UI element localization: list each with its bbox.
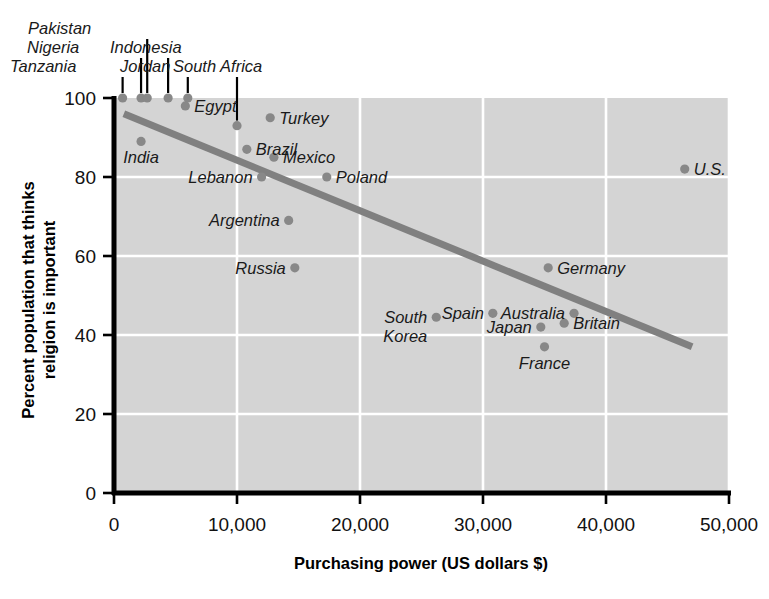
data-point-label: Jordan (119, 57, 170, 75)
data-point-label: Russia (235, 259, 285, 277)
data-point (143, 93, 152, 102)
y-tick-label: 60 (75, 246, 96, 267)
data-point-label: Turkey (279, 109, 330, 127)
data-point-label: Argentina (208, 211, 280, 229)
data-point-label: Japan (486, 318, 532, 336)
data-point-label: Mexico (283, 148, 335, 166)
data-point (680, 165, 689, 174)
scatter-chart-figure: 020406080100 010,00020,00030,00040,00050… (0, 0, 769, 599)
plot-area-background (114, 98, 729, 493)
y-tick-label: 40 (75, 325, 96, 346)
data-point-label: Tanzania (10, 57, 76, 75)
x-tick-label: 0 (109, 514, 120, 535)
data-point-label: South Africa (173, 57, 262, 75)
data-point (136, 137, 145, 146)
y-axis-title-line-1: Percent population that thinks (19, 181, 37, 418)
data-point (488, 309, 497, 318)
data-point-label: Egypt (194, 97, 238, 115)
data-point-label: Poland (336, 168, 388, 186)
data-point-label: Spain (442, 304, 484, 322)
data-point (536, 323, 545, 332)
data-point-label: India (123, 148, 159, 166)
data-point (544, 263, 553, 272)
data-point (257, 172, 266, 181)
x-tick-label: 50,000 (700, 514, 758, 535)
data-point (164, 93, 173, 102)
data-point (242, 145, 251, 154)
x-tick-label: 10,000 (208, 514, 266, 535)
data-point (540, 342, 549, 351)
x-tick-label: 40,000 (577, 514, 635, 535)
y-tick-label: 100 (64, 88, 96, 109)
data-point-label: Nigeria (27, 38, 79, 56)
y-tick-label: 20 (75, 404, 96, 425)
x-axis-title: Purchasing power (US dollars $) (294, 554, 548, 572)
y-tick-label: 80 (75, 167, 96, 188)
data-point (322, 172, 331, 181)
data-point (284, 216, 293, 225)
data-point-label: U.S. (694, 160, 726, 178)
data-point-label: France (519, 354, 570, 372)
data-point (232, 121, 241, 130)
data-point-label: Lebanon (188, 168, 252, 186)
data-point (183, 93, 192, 102)
data-point (181, 101, 190, 110)
y-tick-label: 0 (85, 483, 96, 504)
data-point (432, 313, 441, 322)
x-tick-label: 20,000 (331, 514, 389, 535)
data-point-label: South (384, 308, 427, 326)
data-point-label: Korea (383, 327, 427, 345)
chart-canvas: 020406080100 010,00020,00030,00040,00050… (0, 0, 769, 599)
data-point-label: Germany (557, 259, 627, 277)
plot-bg-rect (114, 98, 729, 493)
data-point (266, 113, 275, 122)
data-point (290, 263, 299, 272)
y-axis-title-line-2: religion is important (40, 220, 58, 379)
data-point (118, 93, 127, 102)
data-point-label: Pakistan (28, 19, 91, 37)
x-tick-label: 30,000 (454, 514, 512, 535)
data-point-label: Britain (573, 314, 620, 332)
data-point-label: Indonesia (110, 38, 182, 56)
